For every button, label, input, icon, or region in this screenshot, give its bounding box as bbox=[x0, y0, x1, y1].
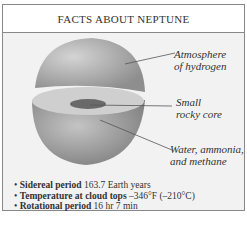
label-mantle-line2: and methane bbox=[170, 155, 244, 167]
label-core: Small rocky core bbox=[176, 96, 222, 120]
label-core-line1: Small bbox=[176, 96, 222, 108]
label-atmosphere-line2: of hydrogen bbox=[174, 60, 226, 72]
upper-hemisphere bbox=[35, 38, 145, 92]
label-atmosphere: Atmosphere of hydrogen bbox=[174, 48, 226, 72]
small-rocky-core bbox=[70, 99, 106, 109]
fact-item: • Sidereal period 163.7 Earth years bbox=[14, 180, 195, 191]
facts-list: • Sidereal period 163.7 Earth years • Te… bbox=[14, 180, 195, 212]
label-core-line2: rocky core bbox=[176, 108, 222, 120]
label-mantle-line1: Water, ammonia, bbox=[170, 143, 244, 155]
fact-item: • Temperature at cloud tops –346°F (–210… bbox=[14, 191, 195, 202]
fact-item: • Rotational period 16 hr 7 min bbox=[14, 201, 195, 212]
label-mantle: Water, ammonia, and methane bbox=[170, 143, 244, 167]
label-atmosphere-line1: Atmosphere bbox=[174, 48, 226, 60]
